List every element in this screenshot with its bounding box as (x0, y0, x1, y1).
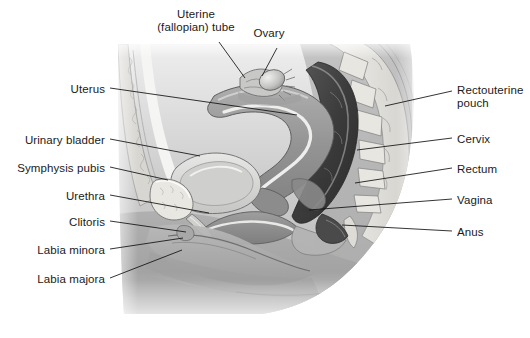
clitoris-structure (177, 225, 194, 240)
label-ovary: Ovary (239, 27, 299, 40)
label-uterine-tube-line1: Uterine (177, 8, 215, 20)
label-symphysis-pubis: Symphysis pubis (0, 162, 105, 175)
label-cervix: Cervix (457, 133, 530, 146)
label-rectouterine-pouch-line2: pouch (457, 97, 530, 110)
label-vagina: Vagina (457, 194, 530, 207)
label-uterine-tube: Uterine (fallopian) tube (146, 8, 246, 33)
right-fade (396, 40, 430, 320)
left-fade (104, 40, 138, 330)
label-rectum: Rectum (457, 163, 530, 176)
label-rectouterine-pouch: Rectouterine pouch (457, 84, 530, 109)
label-urinary-bladder: Urinary bladder (0, 134, 105, 147)
label-ovary-line1: Ovary (253, 27, 284, 39)
label-uterine-tube-line2: (fallopian) tube (146, 21, 246, 34)
label-anus: Anus (457, 226, 530, 239)
bottom-fade (108, 280, 420, 338)
label-uterus: Uterus (0, 83, 105, 96)
anatomy-figure: Uterine (fallopian) tube Ovary Uterus Ur… (0, 0, 530, 338)
label-clitoris: Clitoris (0, 216, 105, 229)
label-labia-minora: Labia minora (0, 244, 105, 257)
label-rectouterine-pouch-line1: Rectouterine (457, 84, 523, 96)
label-urethra: Urethra (0, 190, 105, 203)
label-labia-majora: Labia majora (0, 273, 105, 286)
